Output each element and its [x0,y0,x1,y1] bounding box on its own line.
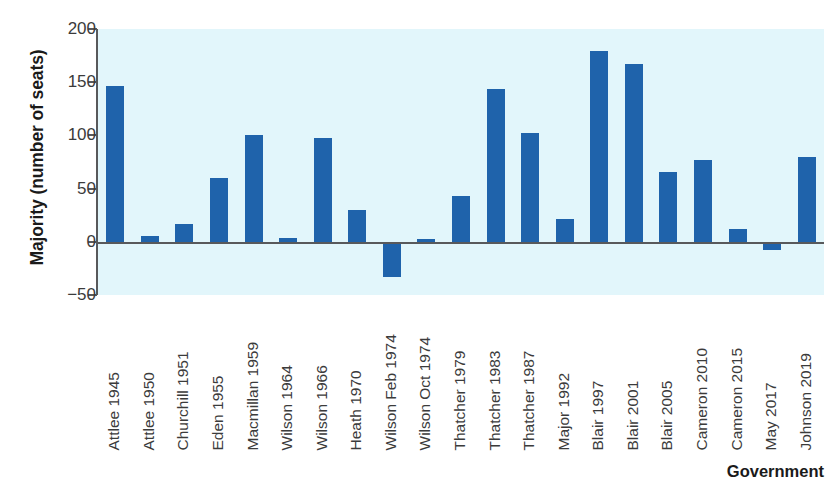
x-axis-label-slot: Cameron 2010 [686,298,721,450]
x-axis-title: Government [727,462,824,481]
bar-slot [513,29,548,295]
bar[interactable] [210,178,228,242]
bar-slot [651,29,686,295]
x-axis-label-slot: Wilson Feb 1974 [375,298,410,450]
bar[interactable] [348,210,366,242]
x-axis-label-slot: Blair 1997 [582,298,617,450]
x-axis-tick-label: Wilson Feb 1974 [382,334,398,450]
x-axis-tick-label: Johnson 2019 [797,353,813,450]
x-axis-label-slot: Blair 2001 [617,298,652,450]
plot-area [98,29,824,295]
bar[interactable] [694,160,712,242]
bar-slot [305,29,340,295]
bar[interactable] [175,224,193,242]
x-axis-label-slot: Macmillan 1959 [236,298,271,450]
x-axis-label-slot: Attlee 1950 [133,298,168,450]
x-axis-label-slot: Major 1992 [547,298,582,450]
bar-slot [547,29,582,295]
bar-slot [789,29,824,295]
bar[interactable] [659,172,677,242]
bar[interactable] [383,242,401,277]
x-axis-label-slot: Blair 2005 [651,298,686,450]
x-axis-label-slot: Thatcher 1983 [478,298,513,450]
x-axis-label-slot: Thatcher 1979 [444,298,479,450]
x-axis-tick-label: Attlee 1950 [140,372,156,450]
x-axis-tick-label: Wilson Oct 1974 [417,336,433,450]
x-axis-label-slot: May 2017 [755,298,790,450]
bar[interactable] [556,219,574,241]
bar-slot [755,29,790,295]
x-axis-tick-label: Eden 1955 [209,375,225,450]
x-axis-tick-label: Attlee 1945 [106,372,122,450]
bar[interactable] [106,86,124,241]
x-axis-tick-label: Thatcher 1979 [451,350,467,450]
x-axis-tick-label: Blair 2001 [624,380,640,450]
y-axis-tick-label: 150 [40,73,96,90]
bar-slot [236,29,271,295]
x-axis-label-slot: Wilson 1964 [271,298,306,450]
x-axis-tick-label: Major 1992 [555,372,571,450]
x-axis-label-slot: Johnson 2019 [789,298,824,450]
y-axis-ticks: 200150100500−50 [0,0,96,492]
x-axis-label-slot: Attlee 1945 [98,298,133,450]
x-axis-tick-label: Cameron 2010 [693,347,709,450]
x-axis-tick-label: Blair 2005 [659,380,675,450]
bar-slot [133,29,168,295]
bar-slot [444,29,479,295]
bar-slot [375,29,410,295]
x-axis-tick-label: Blair 1997 [590,380,606,450]
bar[interactable] [521,133,539,242]
x-axis-label-slot: Churchill 1951 [167,298,202,450]
x-axis-tick-labels: Attlee 1945Attlee 1950Churchill 1951Eden… [98,298,824,450]
bar-slot [98,29,133,295]
bar[interactable] [798,157,816,242]
bar[interactable] [452,196,470,242]
x-axis-tick-label: May 2017 [763,382,779,450]
bar-slot [202,29,237,295]
y-axis-tick-label: 50 [40,180,96,197]
bar[interactable] [590,51,608,241]
bar-chart: Majority (number of seats) 200150100500−… [0,0,836,492]
bar[interactable] [141,236,159,241]
x-axis-label-slot: Wilson 1966 [305,298,340,450]
bar-slot [686,29,721,295]
x-axis-tick-label: Thatcher 1987 [521,350,537,450]
x-axis-tick-label: Wilson 1966 [313,365,329,450]
y-axis-tick-label: −50 [40,286,96,303]
bar[interactable] [314,138,332,242]
x-axis-tick-label: Cameron 2015 [728,347,744,450]
zero-baseline [98,242,824,244]
bar-slot [478,29,513,295]
bar-slot [167,29,202,295]
x-axis-tick-label: Thatcher 1983 [486,350,502,450]
x-axis-label-slot: Thatcher 1987 [513,298,548,450]
y-axis-tick-label: 0 [40,233,96,250]
bar[interactable] [729,229,747,242]
bar-slot [271,29,306,295]
bar-slot [409,29,444,295]
y-axis-tick-label: 200 [40,20,96,37]
x-axis-label-slot: Wilson Oct 1974 [409,298,444,450]
x-axis-tick-label: Wilson 1964 [279,365,295,450]
bar[interactable] [245,135,263,241]
y-axis-tick-label: 100 [40,126,96,143]
bar-slot [582,29,617,295]
x-axis-tick-label: Heath 1970 [348,370,364,450]
bar-slot [340,29,375,295]
bar[interactable] [625,64,643,242]
x-axis-label-slot: Cameron 2015 [720,298,755,450]
bar-slot [720,29,755,295]
x-axis-label-slot: Heath 1970 [340,298,375,450]
x-axis-label-slot: Eden 1955 [202,298,237,450]
x-axis-tick-label: Churchill 1951 [175,351,191,450]
bar[interactable] [487,89,505,242]
bar-slot [617,29,652,295]
x-axis-tick-label: Macmillan 1959 [244,341,260,450]
